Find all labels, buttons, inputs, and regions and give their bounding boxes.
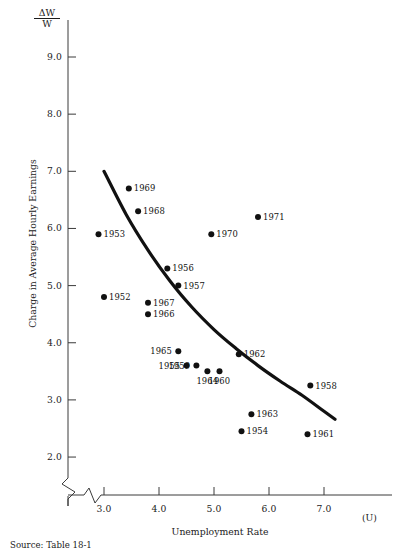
point-label-1968: 1968 (143, 206, 165, 216)
y-axis-tick-label: 5.0 (36, 280, 62, 291)
x-axis-tick-label: 6.0 (252, 503, 286, 514)
point-label-1965: 1965 (150, 346, 172, 356)
point-label-1953: 1953 (104, 229, 126, 239)
data-point-1957[interactable] (175, 283, 181, 289)
y-axis-tick-label: 7.0 (36, 165, 62, 176)
point-label-1959: 1959 (168, 361, 190, 371)
x-axis-break-mark (84, 488, 101, 503)
data-point-1969[interactable] (126, 185, 132, 191)
phillips-curve-figure: ΔW W Charge in Average Hourly Earnings U… (0, 0, 401, 560)
point-label-1967: 1967 (153, 298, 175, 308)
data-point-1971[interactable] (255, 214, 261, 220)
source-note: Source: Table 18-1 (10, 540, 92, 550)
point-label-1957: 1957 (183, 281, 205, 291)
data-point-1967[interactable] (145, 300, 151, 306)
data-point-1958[interactable] (307, 383, 313, 389)
data-point-1960[interactable] (217, 368, 223, 374)
x-axis-variable-symbol: (U) (362, 512, 377, 523)
x-axis-title: Unemployment Rate (150, 526, 290, 537)
data-point-1963[interactable] (248, 411, 254, 417)
data-point-1961[interactable] (305, 431, 311, 437)
point-label-1969: 1969 (134, 183, 156, 193)
y-axis-tick-label: 9.0 (36, 51, 62, 62)
data-point-1959[interactable] (193, 363, 199, 369)
x-axis-tick-label: 5.0 (197, 503, 231, 514)
y-axis-tick-label: 3.0 (36, 394, 62, 405)
data-point-1965[interactable] (175, 348, 181, 354)
data-point-1953[interactable] (96, 231, 102, 237)
y-axis-symbol: ΔW W (34, 8, 60, 29)
point-label-1961: 1961 (313, 429, 335, 439)
data-point-1966[interactable] (145, 311, 151, 317)
y-axis-symbol-denominator: W (34, 19, 60, 29)
point-label-1963: 1963 (256, 409, 278, 419)
data-point-1956[interactable] (164, 266, 170, 272)
point-label-1960: 1960 (209, 376, 231, 386)
point-label-1966: 1966 (153, 309, 175, 319)
point-label-1958: 1958 (315, 381, 337, 391)
data-point-1952[interactable] (101, 294, 107, 300)
x-axis-tick-label: 7.0 (307, 503, 341, 514)
data-point-1954[interactable] (239, 428, 245, 434)
x-axis-tick-label: 3.0 (87, 503, 121, 514)
y-axis-tick-label: 6.0 (36, 222, 62, 233)
point-label-1971: 1971 (263, 212, 285, 222)
y-axis-tick-label: 4.0 (36, 337, 62, 348)
data-point-1964[interactable] (204, 368, 210, 374)
x-axis-tick-label: 4.0 (142, 503, 176, 514)
point-label-1952: 1952 (109, 292, 131, 302)
point-label-1954: 1954 (247, 426, 269, 436)
data-point-1962[interactable] (236, 351, 242, 357)
point-label-1970: 1970 (216, 229, 238, 239)
point-label-1956: 1956 (172, 263, 194, 273)
data-point-1968[interactable] (135, 208, 141, 214)
y-axis-tick-label: 8.0 (36, 108, 62, 119)
data-point-1970[interactable] (208, 231, 214, 237)
point-label-1962: 1962 (244, 349, 266, 359)
y-axis-tick-label: 2.0 (36, 451, 62, 462)
